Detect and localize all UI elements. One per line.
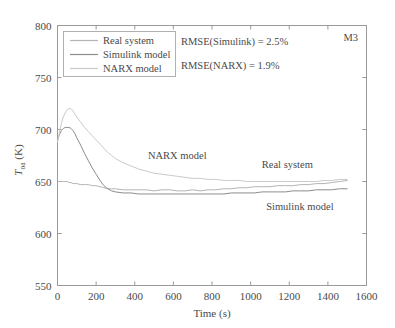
figure-container: 02004006008001000120014001600 5506006507…	[0, 0, 395, 328]
x-tick-label: 1200	[278, 290, 301, 302]
chart-svg: 02004006008001000120014001600 5506006507…	[0, 0, 395, 328]
y-tick-labels: 550600650700750800	[35, 20, 52, 292]
x-tick-label: 0	[55, 290, 61, 302]
annotation-rmse-simulink: RMSE(Simulink) = 2.5%	[181, 36, 288, 48]
y-tick-label: 550	[35, 280, 52, 292]
x-tick-label: 800	[204, 290, 221, 302]
x-tick-labels: 02004006008001000120014001600	[55, 290, 378, 302]
x-tick-label: 1400	[317, 290, 340, 302]
series-line-narx-model	[58, 109, 348, 182]
x-tick-label: 400	[127, 290, 144, 302]
y-tick-label: 700	[35, 124, 52, 136]
legend-label-2: NARX model	[103, 63, 162, 74]
y-tick-label: 600	[35, 228, 52, 240]
y-axis-title-group: Toa (K)	[12, 144, 27, 176]
x-tick-label: 1000	[240, 290, 263, 302]
y-axis-title-unit: (K)	[12, 144, 25, 162]
x-axis-title: Time (s)	[193, 307, 231, 320]
y-axis-title: Toa (K)	[12, 144, 27, 176]
corner-label-m3: M3	[343, 32, 358, 43]
inline-label-real-system-inline: Real system	[262, 159, 313, 170]
y-tick-label: 800	[35, 20, 52, 32]
legend-label-1: Simulink model	[103, 49, 170, 60]
y-tick-label: 650	[35, 176, 52, 188]
x-tick-label: 1600	[356, 290, 379, 302]
annotation-rmse-narx: RMSE(NARX) = 1.9%	[181, 60, 280, 72]
legend-label-0: Real system	[103, 35, 154, 46]
inline-label-narx-inline: NARX model	[148, 150, 207, 161]
legend: Real systemSimulink modelNARX model	[64, 32, 176, 77]
inline-label-simulink-inline: Simulink model	[266, 201, 333, 212]
x-tick-label: 200	[88, 290, 105, 302]
y-tick-label: 750	[35, 72, 52, 84]
x-tick-label: 600	[165, 290, 182, 302]
